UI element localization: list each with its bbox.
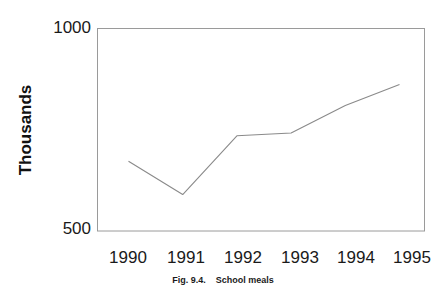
plot-frame bbox=[98, 29, 425, 232]
x-axis-tick-label-1990: 1990 bbox=[101, 248, 155, 268]
x-axis-tick-label-1991: 1991 bbox=[159, 248, 213, 268]
x-axis-tick-label-1995: 1995 bbox=[385, 248, 439, 268]
figure-school-meals: Thousands 1000 500 1990 1991 1992 1993 1… bbox=[0, 0, 446, 304]
figure-caption: Fig. 9.4. School meals bbox=[0, 275, 446, 285]
x-axis-tick-label-1992: 1992 bbox=[216, 248, 270, 268]
x-axis-tick-label-1993: 1993 bbox=[273, 248, 327, 268]
x-axis-tick-label-1994: 1994 bbox=[329, 248, 383, 268]
